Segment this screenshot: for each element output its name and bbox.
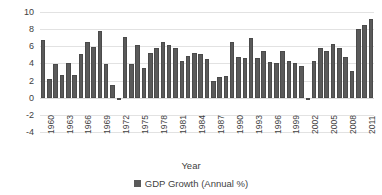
bar	[224, 76, 229, 97]
x-axis-tick-label: 1999	[292, 115, 301, 134]
bar	[66, 63, 71, 97]
y-axis-tick-label: 10	[0, 8, 34, 17]
legend-label: GDP Growth (Annual %)	[145, 178, 248, 189]
bar	[167, 45, 172, 97]
x-axis-tick-label: 2011	[368, 116, 377, 134]
legend-swatch-icon	[134, 180, 141, 187]
bar	[312, 61, 317, 98]
x-axis-tick-label: 1960	[47, 115, 56, 134]
x-axis-tick-label: 1993	[255, 115, 264, 134]
bar	[117, 98, 122, 101]
bar	[255, 58, 260, 97]
bar	[350, 71, 355, 98]
bar	[129, 64, 134, 97]
bar	[192, 53, 197, 98]
y-axis-tick-label: -4	[0, 128, 34, 137]
bar	[60, 75, 65, 97]
bar	[369, 19, 374, 98]
bar	[91, 47, 96, 98]
y-axis-tick-label: 0	[0, 93, 34, 102]
bar	[173, 48, 178, 98]
x-axis-tick-label: 1978	[160, 115, 169, 134]
bar	[85, 42, 90, 98]
bar	[110, 85, 115, 98]
bar	[243, 58, 248, 97]
bar	[293, 63, 298, 98]
y-axis-tick-label: 8	[0, 25, 34, 34]
x-axis-tick-label: 1963	[66, 115, 75, 134]
y-axis-tick-label: -2	[0, 110, 34, 119]
bar	[205, 59, 210, 98]
bar	[72, 75, 77, 97]
y-axis-tick-label: 4	[0, 59, 34, 68]
x-axis-tick-label: 1990	[236, 115, 245, 134]
bar	[104, 64, 109, 97]
plot-area	[40, 12, 374, 132]
bar	[318, 48, 323, 98]
bar	[324, 51, 329, 97]
x-axis-tick-label: 1972	[122, 115, 131, 134]
bar	[236, 57, 241, 97]
bar	[337, 48, 342, 98]
bar	[331, 44, 336, 98]
x-axis-tick-label: 1975	[141, 115, 150, 134]
bar	[79, 54, 84, 98]
x-axis-tick-label: 1987	[217, 115, 226, 134]
chart-legend: GDP Growth (Annual %)	[0, 178, 382, 189]
bar	[142, 68, 147, 98]
bar	[41, 40, 46, 97]
x-axis-tick-label: 1981	[179, 115, 188, 134]
bar	[280, 51, 285, 97]
bar	[268, 62, 273, 98]
bar	[98, 31, 103, 98]
bar	[274, 63, 279, 97]
x-axis-title: Year	[0, 160, 382, 171]
x-axis-tick-label: 2005	[330, 115, 339, 134]
bar	[261, 51, 266, 98]
bar	[230, 42, 235, 98]
bar	[180, 61, 185, 98]
gdp-growth-bar-chart: Annual % 1086420-2-4 1960196319661969197…	[0, 0, 382, 195]
bar	[161, 42, 166, 98]
bar	[53, 64, 58, 97]
bar	[186, 56, 191, 98]
bar	[198, 54, 203, 98]
bar	[135, 45, 140, 98]
bar	[47, 79, 52, 98]
y-axis-tick-label: 6	[0, 42, 34, 51]
x-axis-tick-label: 1996	[274, 115, 283, 134]
x-axis-tick-label: 2008	[349, 115, 358, 134]
x-axis-tick-label: 1969	[103, 115, 112, 134]
bar	[249, 38, 254, 98]
bar	[287, 61, 292, 98]
x-axis-tick-label: 1984	[198, 115, 207, 134]
x-axis-tick-label: 2002	[311, 115, 320, 134]
bar	[356, 29, 361, 98]
bar	[299, 66, 304, 98]
x-axis-tick-label: 1966	[84, 115, 93, 134]
bar-series	[40, 12, 374, 132]
bar	[154, 48, 159, 98]
bar	[362, 25, 367, 98]
bar	[123, 37, 128, 98]
bar	[217, 77, 222, 98]
bar	[306, 98, 311, 100]
y-axis-tick-label: 2	[0, 76, 34, 85]
bar	[343, 57, 348, 98]
bar	[148, 53, 153, 98]
bar	[211, 81, 216, 97]
